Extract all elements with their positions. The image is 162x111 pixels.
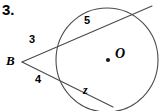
circle-diagram-svg: [0, 0, 162, 111]
center-dot: [106, 58, 110, 62]
problem-number: 3.: [2, 2, 15, 17]
segment-label-external-secant: 3: [29, 34, 35, 45]
vertex-label-b: B: [6, 54, 15, 67]
segment-label-tangent-unknown-z: z: [83, 84, 88, 96]
segment-label-tangent-outer: 4: [35, 74, 41, 85]
segment-label-secant-chord: 5: [84, 15, 90, 26]
center-label-o: O: [115, 47, 125, 61]
geometry-figure: 3. B O 3 5 4 z: [0, 0, 162, 111]
